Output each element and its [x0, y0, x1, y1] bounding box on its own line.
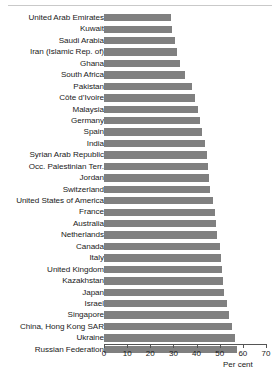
bar-track [104, 60, 280, 67]
bar-row: Jordan [0, 172, 280, 183]
bar-chart: United Arab EmiratesKuwaitSaudi ArabiaIr… [0, 0, 280, 372]
bar [104, 83, 192, 90]
category-label: Japan [0, 287, 104, 298]
x-axis-tick-label: 20 [138, 349, 162, 358]
bar-track [104, 209, 280, 216]
bar-row: China, Hong Kong SAR [0, 321, 280, 332]
category-label: Germany [0, 115, 104, 126]
bar-track [104, 311, 280, 318]
bar-track [104, 106, 280, 113]
bar [104, 71, 185, 78]
bar-row: Malaysia [0, 104, 280, 115]
bar-track [104, 174, 280, 181]
bar-row: United States of America [0, 195, 280, 206]
bar [104, 311, 229, 318]
bar [104, 94, 195, 101]
bar [104, 174, 209, 181]
bar [104, 300, 227, 307]
x-axis-tick-label: 50 [208, 349, 232, 358]
bar-track [104, 26, 280, 33]
x-axis-tick-label: 40 [185, 349, 209, 358]
x-axis-tick [220, 344, 221, 348]
x-axis-tick [243, 344, 244, 348]
category-label: Kuwait [0, 23, 104, 34]
bar-track [104, 289, 280, 296]
x-axis-tick [127, 344, 128, 348]
bar [104, 254, 221, 261]
category-label: Iran (Islamic Rep. of) [0, 46, 104, 57]
bar-track [104, 94, 280, 101]
category-label: Kazakhstan [0, 275, 104, 286]
bar-row: Occ. Palestinian Terr. [0, 161, 280, 172]
bar-track [104, 14, 280, 21]
bar-track [104, 231, 280, 238]
category-label: Ghana [0, 58, 104, 69]
bar [104, 128, 202, 135]
bar [104, 151, 207, 158]
x-axis-line [104, 344, 266, 345]
category-label: China, Hong Kong SAR [0, 321, 104, 332]
bar-row: Netherlands [0, 229, 280, 240]
bar [104, 231, 217, 238]
category-label: United States of America [0, 195, 104, 206]
category-label: Russian Federation [0, 344, 104, 355]
bar [104, 117, 200, 124]
x-axis-tick [104, 344, 105, 348]
bar-row: United Kingdom [0, 264, 280, 275]
category-label: India [0, 138, 104, 149]
bar [104, 334, 235, 341]
category-label: Italy [0, 252, 104, 263]
bar [104, 106, 198, 113]
bar [104, 323, 232, 330]
x-axis-unit-label: Per cent [223, 360, 253, 369]
top-divider-rule [8, 5, 272, 6]
bar-row: Pakistan [0, 81, 280, 92]
bar-row: Canada [0, 241, 280, 252]
bar-row: Kazakhstan [0, 275, 280, 286]
category-label: United Kingdom [0, 264, 104, 275]
x-axis-tick-label: 70 [254, 349, 278, 358]
bar-row: Japan [0, 287, 280, 298]
bar-row: Australia [0, 218, 280, 229]
bar-track [104, 117, 280, 124]
category-label: Côte d’Ivoire [0, 92, 104, 103]
bar [104, 163, 208, 170]
category-label: Spain [0, 126, 104, 137]
category-label: United Arab Emirates [0, 12, 104, 23]
bar-track [104, 254, 280, 261]
bar [104, 60, 180, 67]
category-label: South Africa [0, 69, 104, 80]
x-axis-tick [197, 344, 198, 348]
bar-track [104, 243, 280, 250]
bar-row: Ukraine [0, 332, 280, 343]
bar-track [104, 140, 280, 147]
bar-row: Germany [0, 115, 280, 126]
x-axis-tick [173, 344, 174, 348]
bar-row: Iran (Islamic Rep. of) [0, 46, 280, 57]
category-label: Netherlands [0, 229, 104, 240]
bar-track [104, 83, 280, 90]
bar-track [104, 323, 280, 330]
bar-row: Syrian Arab Republic [0, 149, 280, 160]
bar-track [104, 266, 280, 273]
chart-rows: United Arab EmiratesKuwaitSaudi ArabiaIr… [0, 12, 280, 355]
bar-track [104, 128, 280, 135]
category-label: France [0, 206, 104, 217]
bar-track [104, 163, 280, 170]
bar-track [104, 197, 280, 204]
x-axis-tick [150, 344, 151, 348]
x-axis-tick-label: 30 [161, 349, 185, 358]
x-axis-tick-label: 0 [92, 349, 116, 358]
category-label: Pakistan [0, 81, 104, 92]
category-label: Australia [0, 218, 104, 229]
bar [104, 186, 210, 193]
category-label: Israel [0, 298, 104, 309]
bar-track [104, 71, 280, 78]
bar-row: Spain [0, 126, 280, 137]
category-label: Canada [0, 241, 104, 252]
bar-row: France [0, 206, 280, 217]
bar-row: United Arab Emirates [0, 12, 280, 23]
bar [104, 220, 216, 227]
bar [104, 289, 224, 296]
bar-row: Italy [0, 252, 280, 263]
